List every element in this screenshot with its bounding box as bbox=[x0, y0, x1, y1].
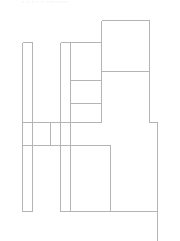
floor-plan-diagram bbox=[0, 0, 180, 241]
